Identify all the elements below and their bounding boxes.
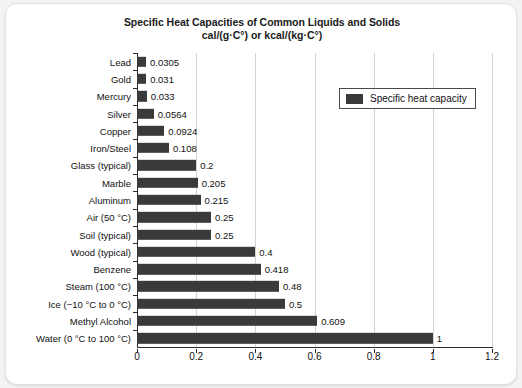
bar-row: Ice (−10 °C to 0 °C)0.5	[137, 295, 492, 312]
x-axis-tick-label: 0.6	[308, 351, 322, 362]
chart-page: Specific Heat Capacities of Common Liqui…	[0, 0, 522, 388]
y-axis-tick	[133, 105, 137, 106]
bar	[137, 178, 198, 188]
bar-row: Copper0.0924	[137, 122, 492, 139]
bar-row: Soil (typical)0.25	[137, 226, 492, 243]
category-label: Methyl Alcohol	[70, 316, 131, 327]
bar	[137, 264, 261, 274]
y-axis-tick	[133, 226, 137, 227]
bar-value-label: 0.2	[200, 160, 213, 171]
y-axis-tick	[133, 330, 137, 331]
y-axis-tick	[133, 295, 137, 296]
y-axis-tick	[133, 70, 137, 71]
bar	[137, 74, 146, 84]
bar-row: Glass (typical)0.2	[137, 157, 492, 174]
category-label: Iron/Steel	[90, 143, 131, 154]
y-axis-tick	[133, 243, 137, 244]
bar-row: Iron/Steel0.108	[137, 139, 492, 156]
category-label: Air (50 °C)	[87, 212, 131, 223]
y-axis-tick	[133, 157, 137, 158]
bar-row: Wood (typical)0.4	[137, 243, 492, 260]
chart-card: Specific Heat Capacities of Common Liqui…	[5, 3, 517, 385]
bar	[137, 143, 169, 153]
bar-value-label: 0.4	[259, 246, 272, 257]
bar	[137, 126, 164, 136]
x-axis-tick-label: 1.2	[485, 351, 499, 362]
x-axis-tick-label: 1	[430, 351, 436, 362]
bar	[137, 195, 201, 205]
chart-title: Specific Heat Capacities of Common Liqui…	[6, 16, 517, 29]
bar	[137, 212, 211, 222]
x-axis-tick-label: 0.4	[248, 351, 262, 362]
bar-row: Benzene0.418	[137, 261, 492, 278]
bar-row: Gold0.031	[137, 70, 492, 87]
y-axis-tick	[133, 53, 137, 54]
bar	[137, 316, 317, 326]
y-axis-tick	[133, 209, 137, 210]
chart-legend: Specific heat capacity	[339, 88, 476, 109]
category-label: Benzene	[93, 264, 131, 275]
legend-label: Specific heat capacity	[370, 93, 467, 104]
bar-value-label: 0.0305	[150, 56, 179, 67]
bar-row: Water (0 °C to 100 °C)1	[137, 330, 492, 347]
category-label: Ice (−10 °C to 0 °C)	[48, 298, 131, 309]
bar-value-label: 0.25	[215, 229, 234, 240]
category-label: Copper	[100, 125, 131, 136]
y-axis-tick	[133, 261, 137, 262]
y-axis-tick	[133, 191, 137, 192]
y-axis-tick	[133, 312, 137, 313]
bar-row: Air (50 °C)0.25	[137, 209, 492, 226]
bar-value-label: 0.205	[202, 177, 226, 188]
gridline-1.2	[492, 53, 493, 347]
title-block: Specific Heat Capacities of Common Liqui…	[6, 16, 517, 42]
bar-value-label: 0.0564	[158, 108, 187, 119]
bar-row: Methyl Alcohol0.609	[137, 312, 492, 329]
bar	[137, 91, 147, 101]
bar	[137, 247, 255, 257]
x-axis-tick-label: 0.8	[367, 351, 381, 362]
bar-value-label: 0.609	[321, 316, 345, 327]
category-label: Steam (100 °C)	[65, 281, 131, 292]
chart-subtitle: cal/(g·C°) or kcal/(kg·C°)	[6, 29, 517, 42]
bar	[137, 56, 146, 66]
y-axis-tick	[133, 278, 137, 279]
bar	[137, 333, 433, 343]
bar-value-label: 0.031	[150, 73, 174, 84]
bar	[137, 108, 154, 118]
bar	[137, 281, 279, 291]
y-axis-tick	[133, 122, 137, 123]
y-axis-tick	[133, 139, 137, 140]
bar-row: Aluminum0.215	[137, 191, 492, 208]
bar-value-label: 0.033	[151, 91, 175, 102]
category-label: Aluminum	[89, 194, 131, 205]
x-axis-tick-labels: 00.20.40.60.811.2	[137, 349, 492, 369]
category-label: Lead	[110, 56, 131, 67]
x-axis-tick-label: 0	[134, 351, 140, 362]
bar-value-label: 0.25	[215, 212, 234, 223]
category-label: Soil (typical)	[79, 229, 131, 240]
category-label: Wood (typical)	[70, 246, 131, 257]
bar-value-label: 0.418	[265, 264, 289, 275]
bar-row: Lead0.0305	[137, 53, 492, 70]
bar-value-label: 0.5	[289, 298, 302, 309]
bar-row: Marble0.205	[137, 174, 492, 191]
bar-row: Steam (100 °C)0.48	[137, 278, 492, 295]
category-label: Water (0 °C to 100 °C)	[36, 333, 131, 344]
y-axis-tick	[133, 174, 137, 175]
bar	[137, 160, 196, 170]
bar-value-label: 1	[437, 333, 442, 344]
category-label: Mercury	[97, 91, 131, 102]
category-label: Silver	[107, 108, 131, 119]
bar	[137, 299, 285, 309]
bar-value-label: 0.108	[173, 143, 197, 154]
legend-swatch-icon	[346, 94, 363, 104]
y-axis-tick	[133, 88, 137, 89]
bar-value-label: 0.215	[205, 194, 229, 205]
x-axis-tick-label: 0.2	[189, 351, 203, 362]
category-label: Marble	[102, 177, 131, 188]
bar-value-label: 0.0924	[168, 125, 197, 136]
x-axis-line	[137, 347, 493, 348]
category-label: Glass (typical)	[71, 160, 131, 171]
bar-value-label: 0.48	[283, 281, 302, 292]
category-label: Gold	[111, 73, 131, 84]
